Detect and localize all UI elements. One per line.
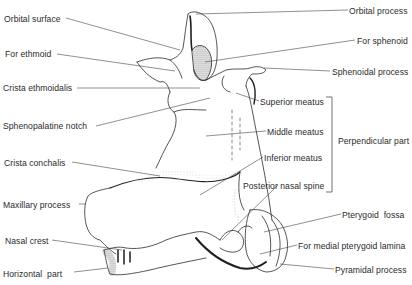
label-pyramidal-process: Pyramidal process (335, 265, 407, 275)
label-sphenopalatine-notch: Sphenopalatine notch (3, 121, 87, 131)
label-orbital-process: Orbital process (349, 6, 408, 16)
label-nasal-crest: Nasal crest (5, 236, 49, 246)
label-maxillary-process: Maxillary process (3, 200, 70, 210)
label-posterior-nasal-spine: Posterior nasal spine (243, 181, 324, 191)
label-pterygoid-fossa: Pterygoid fossa (342, 210, 404, 220)
label-for-ethmoid: For ethmoid (5, 49, 51, 59)
label-for-sphenoid: For sphenoid (357, 36, 408, 46)
label-horizontal-part: Horizontal part (3, 269, 62, 279)
label-inferior-meatus: Inferior meatus (264, 153, 322, 163)
label-superior-meatus: Superior meatus (260, 97, 324, 107)
label-orbital-surface: Orbital surface (4, 14, 61, 24)
label-crista-ethmoidalis: Crista ethmoidalis (3, 83, 72, 93)
label-sphenoidal-process: Sphenoidal process (332, 67, 408, 77)
palatine-bone-diagram: Orbital surface For ethmoid Crista ethmo… (0, 0, 412, 285)
label-perpendicular-part: Perpendicular part (338, 136, 409, 146)
label-middle-meatus: Middle meatus (267, 127, 324, 137)
leader-orbital-surface (66, 18, 180, 50)
perpendicular-part-bracket (326, 97, 332, 192)
label-for-medial-pterygoid-lamina: For medial pterygoid lamina (298, 241, 405, 251)
label-crista-conchalis: Crista conchalis (4, 158, 65, 168)
